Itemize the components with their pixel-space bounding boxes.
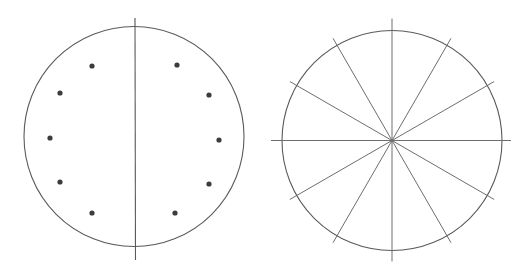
ring-dot <box>206 181 211 186</box>
ring-dot <box>57 179 62 184</box>
ring-dot <box>206 92 211 97</box>
figure-root: Circle with vertical diameter and ten do… <box>0 0 527 277</box>
ring-dot <box>216 137 221 142</box>
ring-dot <box>172 210 177 215</box>
diagram-canvas <box>0 0 527 277</box>
ring-dot <box>57 90 62 95</box>
left-vertical-diameter <box>135 18 136 260</box>
ring-dot <box>89 63 94 68</box>
ring-dot <box>89 210 94 215</box>
ring-dot <box>174 62 179 67</box>
ring-dot <box>47 135 52 140</box>
